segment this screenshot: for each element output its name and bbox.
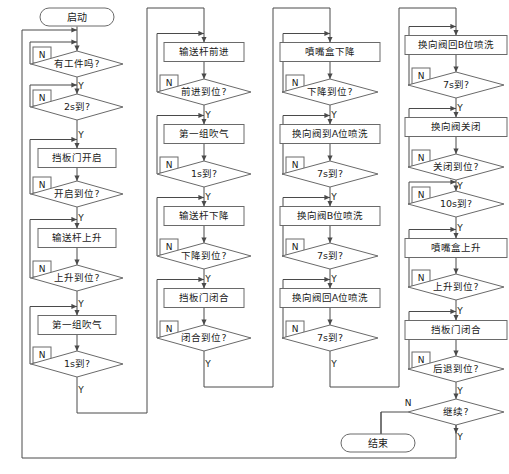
yes-label: Y [204, 110, 211, 120]
column-4-node-4-label: 10s到? [440, 198, 472, 209]
yes-label: Y [456, 181, 463, 191]
no-label: N [166, 324, 173, 334]
flowchart-svg: YNYNYNYNNYNYNYNNYNYNYNNYNYNYNYNYNYYYNY启动… [0, 0, 509, 474]
no-label: N [418, 355, 425, 365]
yes-label: Y [456, 386, 463, 396]
yes-label: Y [330, 274, 337, 284]
no-label: N [39, 350, 46, 360]
no-label: N [292, 78, 299, 88]
column-3-node-4-label: 换向阀B位喷洗 [297, 210, 364, 221]
yes-label: Y [77, 385, 84, 395]
yes-label: Y [456, 306, 463, 316]
no-label: N [39, 50, 46, 60]
column-2-node-2-label: 第一组吹气 [179, 128, 229, 139]
column-1-node-1-label: 有工件吗? [54, 58, 99, 69]
column-2-node-1-label: 前进到位? [181, 86, 226, 97]
no-label: N [39, 180, 46, 190]
column-1-node-3-label: 挡板门开启 [52, 152, 102, 163]
column-1-node-2-label: 2s到? [64, 101, 90, 112]
yes-label: Y [77, 130, 84, 140]
column-3-node-1-label: 下降到位? [307, 86, 352, 97]
column-4-node-3-label: 关闭到位? [433, 161, 478, 172]
column-1-node-8-label: 1s到? [64, 358, 90, 369]
column-2-node-5-label: 下降到位? [181, 250, 226, 261]
column-2-node-0-label: 输送杆前进 [179, 46, 229, 57]
no-label: N [292, 160, 299, 170]
no-label: N [405, 398, 412, 408]
no-label: N [418, 190, 425, 200]
flowchart-canvas: YNYNYNYNNYNYNYNNYNYNYNNYNYNYNYNYNYYYNY启动… [0, 0, 509, 474]
yes-label: Y [330, 359, 337, 369]
no-label: N [418, 153, 425, 163]
column-1-node-0-label: 启动 [67, 11, 87, 23]
column-4-node-8-label: 后退到位? [433, 363, 478, 374]
no-label: N [418, 273, 425, 283]
yes-label: Y [204, 192, 211, 202]
yes-label: Y [204, 274, 211, 284]
yes-label: Y [456, 223, 463, 233]
column-1-node-5-label: 输送杆上升 [52, 232, 102, 243]
no-label: N [166, 160, 173, 170]
column-3-node-2-label: 换向阀到A位喷洗 [292, 128, 369, 139]
yes-label: Y [330, 110, 337, 120]
column-3-node-0-label: 噴嘴盒下降 [305, 46, 355, 57]
column-4-node-7-label: 挡板门闭合 [431, 324, 481, 335]
yes-label: Y [456, 103, 463, 113]
no-label: N [166, 242, 173, 252]
no-label: N [418, 71, 425, 81]
yes-label: Y [456, 432, 463, 442]
column-3-node-7-label: 7s到? [317, 332, 343, 343]
column-2-node-3-label: 1s到? [191, 168, 217, 179]
column-4-node-0-label: 换向阀回B位喷洗 [418, 39, 495, 50]
column-4-node-5-label: 噴嘴盒上升 [431, 242, 481, 253]
no-label: N [39, 93, 46, 103]
column-1-node-4-label: 开启到位? [54, 188, 99, 199]
yes-label: Y [77, 299, 84, 309]
no-label: N [166, 78, 173, 88]
column-4-node-9-label: 继续? [443, 406, 468, 417]
yes-label: Y [330, 192, 337, 202]
column-4-node-10-label: 结束 [368, 437, 388, 449]
column-3-node-3-label: 7s到? [317, 168, 343, 179]
column-4-node-6-label: 上升到位? [433, 281, 478, 292]
column-4-node-1-label: 7s到? [443, 79, 469, 90]
yes-label: Y [77, 81, 84, 91]
column-2-node-6-label: 挡板门闭合 [179, 292, 229, 303]
yes-label: Y [77, 213, 84, 223]
column-3-node-5-label: 7s到? [317, 250, 343, 261]
no-label: N [39, 264, 46, 274]
no-label: N [292, 324, 299, 334]
yes-label: Y [204, 359, 211, 369]
column-2-node-7-label: 闭合到位? [181, 332, 226, 343]
no-label: N [292, 242, 299, 252]
column-1-node-6-label: 上升到位? [54, 272, 99, 283]
column-3-node-6-label: 换向阀回A位喷洗 [292, 292, 369, 303]
column-2-node-4-label: 输送杆下降 [179, 210, 229, 221]
column-4-node-2-label: 换向阀关闭 [431, 121, 481, 132]
column-1-node-7-label: 第一组吹气 [52, 319, 102, 330]
